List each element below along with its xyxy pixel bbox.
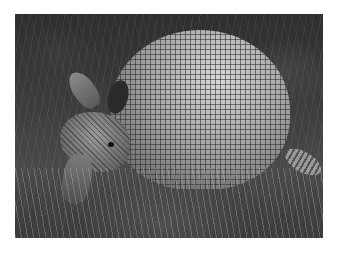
armadillo-photo (15, 14, 323, 238)
grass-foreground (15, 168, 323, 238)
armadillo-eye (108, 142, 114, 147)
armadillo-shell (110, 30, 290, 190)
